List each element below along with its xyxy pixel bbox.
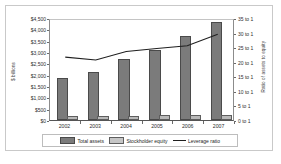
- y-tick-left: $4,000: [31, 27, 46, 33]
- legend-item-stockholder-equity: Stockholder equity: [109, 137, 168, 144]
- y-tick-left: $1,500: [31, 84, 46, 90]
- y-tick-mark-left: [47, 98, 49, 99]
- y-tick-right: 20 to 1: [238, 60, 253, 66]
- y-tick-left: $1,000: [31, 95, 46, 101]
- y-tick-mark-left: [47, 121, 49, 122]
- y-tick-mark-right: [234, 63, 236, 64]
- legend-swatch-leverage-ratio: [173, 140, 186, 141]
- x-tick-label: 2005: [142, 123, 173, 129]
- y-tick-mark-left: [47, 30, 49, 31]
- y-tick-left: $2,500: [31, 61, 46, 67]
- y-tick-left: $0: [40, 118, 46, 124]
- y-tick-right: 15 to 1: [238, 74, 253, 80]
- y-tick-left: $4,500: [31, 16, 46, 22]
- x-tick-label: 2002: [49, 123, 80, 129]
- y-axis-right-ticks: 35 to 130 to 125 to 120 to 115 to 110 to…: [234, 6, 264, 150]
- y-tick-left: $500: [35, 107, 46, 113]
- y-tick-mark-left: [47, 42, 49, 43]
- y-tick-right: 35 to 1: [238, 16, 253, 22]
- y-tick-mark-right: [234, 34, 236, 35]
- y-tick-right: 30 to 1: [238, 31, 253, 37]
- legend-swatch-total-assets: [60, 137, 75, 144]
- y-tick-left: $2,000: [31, 73, 46, 79]
- y-tick-left: $3,000: [31, 50, 46, 56]
- legend-label-leverage-ratio: Leverage ratio: [188, 138, 220, 144]
- x-tick-label: 2006: [172, 123, 203, 129]
- y-tick-mark-right: [234, 19, 236, 20]
- y-tick-right: 0 to 1: [238, 118, 251, 124]
- x-tick-mark: [234, 121, 235, 124]
- y-tick-mark-left: [47, 19, 49, 20]
- x-tick-mark: [142, 121, 143, 124]
- chart-container: $ billions Ratio of assets to equity $4,…: [5, 5, 273, 151]
- x-tick-label: 2004: [111, 123, 142, 129]
- legend-item-leverage-ratio: Leverage ratio: [173, 138, 220, 144]
- legend-label-total-assets: Total assets: [77, 138, 103, 144]
- leverage-ratio-line: [50, 20, 233, 120]
- plot-area: [49, 19, 234, 121]
- y-tick-mark-right: [234, 106, 236, 107]
- y-tick-mark-right: [234, 92, 236, 93]
- y-tick-mark-left: [47, 64, 49, 65]
- y-tick-left: $3,500: [31, 39, 46, 45]
- x-tick-label: 2003: [80, 123, 111, 129]
- legend-item-total-assets: Total assets: [60, 137, 104, 144]
- x-tick-label: 2007: [203, 123, 234, 129]
- legend-label-stockholder-equity: Stockholder equity: [126, 138, 167, 144]
- y-tick-right: 5 to 1: [238, 103, 251, 109]
- chart-legend: Total assets Stockholder equity Leverage…: [42, 134, 238, 147]
- x-tick-mark: [172, 121, 173, 124]
- x-tick-mark: [80, 121, 81, 124]
- y-tick-mark-left: [47, 110, 49, 111]
- x-tick-mark: [111, 121, 112, 124]
- y-axis-left-ticks: $4,500$4,000$3,500$3,000$2,500$2,000$1,5…: [14, 6, 46, 150]
- y-tick-right: 10 to 1: [238, 89, 253, 95]
- y-tick-right: 25 to 1: [238, 45, 253, 51]
- legend-swatch-stockholder-equity: [109, 137, 124, 144]
- y-tick-mark-left: [47, 76, 49, 77]
- y-tick-mark-left: [47, 87, 49, 88]
- y-tick-mark-right: [234, 77, 236, 78]
- y-tick-mark-left: [47, 53, 49, 54]
- y-tick-mark-right: [234, 48, 236, 49]
- x-tick-mark: [203, 121, 204, 124]
